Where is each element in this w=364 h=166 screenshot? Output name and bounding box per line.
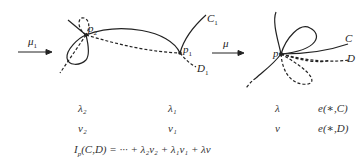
arrow-mu — [212, 51, 244, 56]
curve-c1-label: C1 — [207, 13, 218, 27]
point-p1 — [178, 51, 182, 55]
middle-curves — [180, 15, 206, 67]
arrow-mu1-label: μ1 — [28, 36, 37, 50]
lambda1: λ₁ — [168, 102, 177, 114]
right-curves — [246, 12, 350, 88]
left-curves — [60, 18, 180, 73]
curve-d1-label: D1 — [197, 63, 208, 77]
point-p1-label: p1 — [183, 44, 192, 58]
point-p-label: p — [273, 48, 279, 59]
intersection-formula: Ip(C,D) = ··· + λ₂ν₂ + λ₁ν₁ + λν — [74, 143, 211, 158]
e-star-d: e(∗,D) — [318, 122, 348, 135]
arrow-mu1 — [18, 50, 52, 55]
nu: ν — [275, 122, 280, 134]
lambda2: λ₂ — [78, 102, 87, 114]
arrow-mu-label: μ — [223, 38, 229, 49]
nu1: ν₁ — [168, 122, 177, 134]
blowup-diagram — [0, 0, 364, 166]
point-p2-label: p2 — [88, 23, 97, 37]
curve-c-label: C — [345, 33, 352, 44]
point-p — [279, 52, 283, 56]
curve-d-label: D — [347, 53, 355, 64]
lambda: λ — [275, 102, 280, 114]
nu2: ν₂ — [78, 122, 87, 134]
e-star-c: e(∗,C) — [318, 102, 348, 115]
